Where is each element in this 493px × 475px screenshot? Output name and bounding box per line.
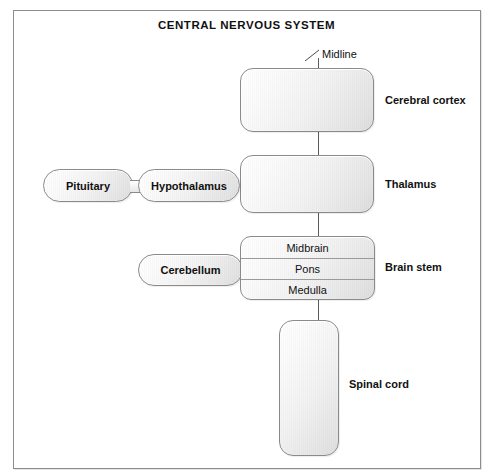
cerebral-cortex-box[interactable] <box>240 68 374 132</box>
diagram-canvas: CENTRAL NERVOUS SYSTEM Midline Cerebral … <box>0 0 493 475</box>
pituitary-box[interactable]: Pituitary <box>43 169 133 202</box>
brain-stem-label: Brain stem <box>385 261 442 273</box>
cerebellum-box[interactable]: Cerebellum <box>138 254 243 286</box>
brain-stem-segment-midbrain[interactable]: Midbrain <box>241 237 374 258</box>
thalamus-box[interactable] <box>240 155 374 213</box>
brain-stem-box[interactable]: Midbrain Pons Medulla <box>240 236 375 300</box>
spinal-cord-label: Spinal cord <box>349 378 409 390</box>
cerebellum-label: Cerebellum <box>139 255 242 285</box>
cerebral-cortex-label: Cerebral cortex <box>385 94 466 106</box>
hypothalamus-label: Hypothalamus <box>139 170 239 201</box>
brain-stem-segment-medulla[interactable]: Medulla <box>241 280 374 301</box>
midline-leader-line <box>303 50 321 62</box>
midline-label: Midline <box>322 48 357 60</box>
hypothalamus-box[interactable]: Hypothalamus <box>138 169 240 202</box>
diagram-title: CENTRAL NERVOUS SYSTEM <box>0 19 493 31</box>
brain-stem-segment-pons[interactable]: Pons <box>241 258 374 279</box>
pituitary-label: Pituitary <box>44 170 132 201</box>
spinal-cord-box[interactable] <box>279 320 339 456</box>
thalamus-label: Thalamus <box>385 178 436 190</box>
